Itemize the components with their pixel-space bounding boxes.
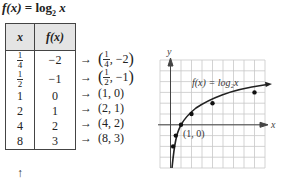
x-cell: 8 <box>6 134 35 150</box>
title-func: f(x) <box>2 0 22 15</box>
x-axis-arrow-icon <box>260 122 268 127</box>
title-base: 2 <box>52 9 56 18</box>
right-arrow-icon: → <box>80 70 92 85</box>
table-row: 21 <box>6 104 76 119</box>
table-row: 12 −1 <box>6 70 76 89</box>
point-label: (1, 0) <box>183 128 205 140</box>
pair-item: →(14, −2) <box>80 50 134 68</box>
pair-item: →(8, 3) <box>80 131 134 146</box>
curve-arrow-icon <box>265 82 272 87</box>
title-var: x <box>59 0 66 15</box>
y-axis-label: y <box>166 46 172 57</box>
header-fx: f(x) <box>35 24 76 51</box>
fx-cell: 3 <box>35 134 76 150</box>
x-fraction: 12 <box>17 70 24 89</box>
right-arrow-icon: → <box>80 131 92 146</box>
pair-item: →(12, −1) <box>80 68 134 86</box>
x-cell: 2 <box>6 104 35 119</box>
fx-cell: −2 <box>35 51 76 71</box>
fx-cell: 2 <box>35 119 76 134</box>
function-title: f(x) = log2 x <box>2 0 66 18</box>
pair-item: →(1, 0) <box>80 86 134 101</box>
fx-cell: 1 <box>35 104 76 119</box>
log-curve <box>172 85 268 169</box>
title-eq: = log <box>22 0 53 15</box>
table-row: 14 −2 <box>6 51 76 71</box>
x-axis-label: x <box>270 119 276 130</box>
y-axis-arrow-icon <box>168 58 173 66</box>
curve-label: f(x) = log₂x <box>192 77 239 89</box>
header-x: x <box>6 24 35 51</box>
right-arrow-icon: → <box>80 86 92 101</box>
x-cell: 4 <box>6 119 35 134</box>
x-cell: 1 <box>6 89 35 104</box>
up-arrow-icon: ↑ <box>17 166 23 181</box>
right-arrow-icon: → <box>80 52 92 67</box>
pair-item: →(4, 2) <box>80 116 134 131</box>
pair-item: →(2, 1) <box>80 101 134 116</box>
fx-cell: 0 <box>35 89 76 104</box>
log-graph: y x f(x) = log₂x (1, 0) <box>150 40 292 181</box>
right-arrow-icon: → <box>80 116 92 131</box>
values-table: x f(x) 14 −2 12 −1 10 21 42 83 <box>5 23 76 150</box>
ordered-pairs: →(14, −2) →(12, −1) →(1, 0) →(2, 1) →(4,… <box>80 50 134 146</box>
table-row: 10 <box>6 89 76 104</box>
table-row: 42 <box>6 119 76 134</box>
fx-cell: −1 <box>35 70 76 89</box>
table-row: 83 <box>6 134 76 150</box>
x-fraction: 14 <box>17 51 24 70</box>
right-arrow-icon: → <box>80 101 92 116</box>
